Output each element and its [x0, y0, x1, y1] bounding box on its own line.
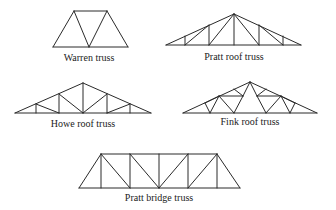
fink-roof-truss-drawing [183, 82, 317, 113]
pratt-roof-truss-label: Pratt roof truss [204, 51, 263, 62]
howe-roof-truss-drawing [15, 83, 151, 113]
pratt-roof-truss-drawing [166, 14, 301, 45]
fink-roof-truss-label: Fink roof truss [221, 116, 280, 127]
pratt-bridge-truss-drawing [79, 154, 240, 188]
pratt-bridge-truss-label: Pratt bridge truss [125, 192, 193, 203]
warren-truss-label: Warren truss [64, 52, 115, 63]
truss-diagram-canvas [0, 0, 336, 210]
howe-roof-truss-label: Howe roof truss [51, 118, 115, 129]
warren-truss-drawing [53, 11, 128, 47]
